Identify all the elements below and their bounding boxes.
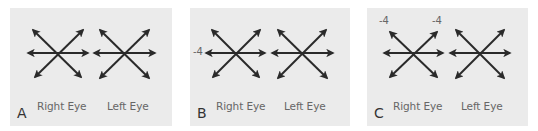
right-eye-label: Right Eye [37,100,86,112]
eye-movement-arrows-b [190,8,350,126]
left-eye-arrows [450,30,510,78]
left-eye-label: Left Eye [284,100,326,112]
panel-letter: C [374,105,384,121]
panel-c: -4 -4 Right Eye Left Eye C [367,8,528,126]
panel-b: -4 Right Eye Left Eye B [190,8,350,126]
right-eye-label: Right Eye [216,100,265,112]
left-eye-arrows [272,30,333,78]
left-eye-label: Left Eye [461,100,503,112]
left-eye-label: Left Eye [107,100,149,112]
right-eye-label: Right Eye [393,100,442,112]
right-eye-arrows [206,30,265,77]
panel-letter: A [17,105,27,121]
panel-a: Right Eye Left Eye A [10,8,172,126]
right-eye-arrows [28,30,88,77]
eye-movement-arrows-c [367,8,528,126]
left-eye-arrows [94,30,155,78]
panel-letter: B [197,105,207,121]
right-eye-arrows [384,32,443,77]
deficit-label-upper-left: -4 [379,15,389,26]
deficit-label-upper-right: -4 [432,15,442,26]
deficit-label-horizontal: -4 [193,46,203,57]
